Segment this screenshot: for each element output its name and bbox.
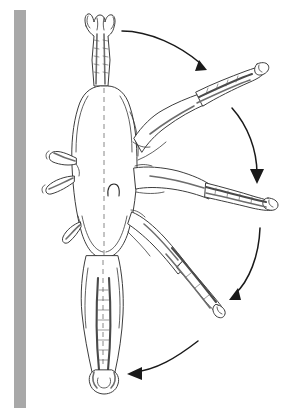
motion-arrow-3 bbox=[229, 228, 260, 300]
vertical-reference-bar bbox=[14, 10, 26, 408]
limb-position-1-raised-cranial bbox=[133, 63, 269, 160]
motion-arrow-4 bbox=[127, 341, 198, 380]
limb-position-3-caudal-oblique bbox=[128, 210, 225, 318]
figure-container: Limb movement sequence diagram Line draw… bbox=[0, 0, 295, 418]
head-and-neck bbox=[85, 14, 115, 86]
motion-arrow-2 bbox=[232, 108, 264, 184]
animal-dorsal-view bbox=[42, 14, 278, 394]
limb-position-4-retracted-caudal bbox=[81, 256, 123, 394]
anatomical-line-drawing bbox=[0, 0, 295, 418]
motion-arrow-1 bbox=[122, 31, 207, 71]
